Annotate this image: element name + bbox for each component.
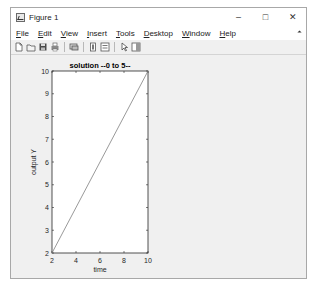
menu-help[interactable]: Help [219,29,235,38]
save-icon [38,42,48,52]
svg-text:10: 10 [41,68,49,75]
toolbar-separator [83,42,84,52]
svg-text:10: 10 [144,257,152,264]
minimize-button[interactable]: – [225,8,252,26]
svg-text:3: 3 [45,227,49,234]
svg-text:7: 7 [45,136,49,143]
new-figure-icon [14,42,24,52]
window-controls: – □ ✕ [225,8,306,26]
insert-legend-icon [100,42,110,52]
link-plot-icon [69,42,79,52]
svg-text:6: 6 [98,257,102,264]
svg-text:2: 2 [50,257,54,264]
print-icon [50,42,60,52]
print-button[interactable] [49,42,60,53]
open-file-button[interactable] [25,42,36,53]
insert-legend-button[interactable] [99,42,110,53]
insert-colorbar-button[interactable] [87,42,98,53]
svg-text:4: 4 [45,204,49,211]
y-axis-label: output Y [30,149,38,175]
figure-canvas[interactable]: 2 3 4 5 6 7 8 9 10 2 4 6 8 10 solution -… [11,55,306,278]
property-editor-button[interactable] [130,42,141,53]
menu-desktop[interactable]: Desktop [144,29,173,38]
edit-plot-button[interactable] [118,42,129,53]
toolbar-separator [64,42,65,52]
x-axis-label: time [93,266,106,273]
maximize-button[interactable]: □ [252,8,279,26]
svg-text:5: 5 [45,181,49,188]
toolbar-separator [114,42,115,52]
y-tick-labels: 2 3 4 5 6 7 8 9 10 [41,68,49,257]
open-file-icon [26,42,36,52]
new-figure-button[interactable] [13,42,24,53]
figure-window: Figure 1 – □ ✕ File Edit View Insert Too… [10,7,307,279]
plot-title: solution --0 to 5-- [70,61,131,70]
menu-tools[interactable]: Tools [116,29,135,38]
svg-text:2: 2 [45,250,49,257]
link-plot-button[interactable] [68,42,79,53]
menu-insert[interactable]: Insert [87,29,107,38]
menubar-dock-arrow-icon[interactable] [297,30,301,34]
title-bar[interactable]: Figure 1 – □ ✕ [11,8,306,26]
x-tick-labels: 2 4 6 8 10 [50,257,152,264]
close-button[interactable]: ✕ [279,8,306,26]
menu-window[interactable]: Window [182,29,210,38]
save-button[interactable] [37,42,48,53]
menu-bar: File Edit View Insert Tools Desktop Wind… [11,26,306,40]
edit-plot-arrow-icon [119,42,129,52]
svg-text:8: 8 [45,113,49,120]
figure-toolbar [11,40,306,55]
menu-edit[interactable]: Edit [38,29,52,38]
property-editor-icon [131,42,141,52]
svg-text:9: 9 [45,90,49,97]
menu-view[interactable]: View [61,29,78,38]
insert-colorbar-icon [88,42,98,52]
svg-text:6: 6 [45,159,49,166]
svg-text:4: 4 [74,257,78,264]
menu-file[interactable]: File [16,29,29,38]
matlab-figure-icon [16,13,25,22]
window-title: Figure 1 [29,13,58,22]
svg-text:8: 8 [122,257,126,264]
plot-axes[interactable]: 2 3 4 5 6 7 8 9 10 2 4 6 8 10 solution -… [11,55,306,279]
